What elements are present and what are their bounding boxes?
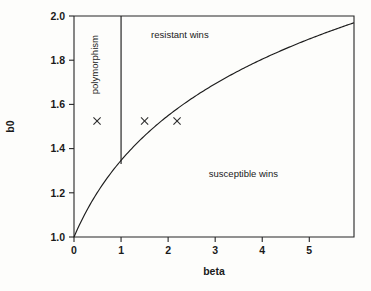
x-tick-label: 5 — [306, 244, 312, 256]
x-tick-label: 0 — [71, 244, 77, 256]
y-tick-label: 1.0 — [50, 231, 65, 243]
phase-diagram-svg: 1.01.21.41.61.82.0 012345 polymorphism r… — [0, 0, 371, 291]
x-tick-label: 2 — [165, 244, 171, 256]
x-axis-ticks — [74, 237, 309, 242]
y-tick-label: 2.0 — [50, 10, 65, 22]
boundary-curve — [74, 23, 354, 237]
susceptible-wins-region-label: susceptible wins — [209, 168, 278, 179]
phase-diagram-figure: 1.01.21.41.61.82.0 012345 polymorphism r… — [0, 0, 371, 291]
y-tick-label: 1.6 — [50, 98, 65, 110]
x-axis-tick-labels: 012345 — [71, 244, 312, 256]
plot-frame-box — [74, 16, 354, 237]
plot-frame — [74, 16, 354, 237]
y-tick-label: 1.4 — [50, 142, 65, 154]
resistant-wins-region-label: resistant wins — [151, 29, 209, 40]
data-point-markers — [93, 117, 180, 124]
x-axis-title: beta — [203, 265, 225, 277]
marker-cross — [93, 117, 100, 124]
x-tick-label: 4 — [259, 244, 265, 256]
x-tick-label: 1 — [118, 244, 124, 256]
polymorphism-region-label: polymorphism — [89, 35, 100, 94]
x-tick-label: 3 — [212, 244, 218, 256]
y-axis-ticks — [69, 16, 74, 237]
y-tick-label: 1.2 — [50, 187, 65, 199]
y-axis-title: b0 — [4, 120, 16, 132]
marker-cross — [173, 117, 180, 124]
marker-cross — [141, 117, 148, 124]
y-axis-tick-labels: 1.01.21.41.61.82.0 — [50, 10, 65, 243]
y-tick-label: 1.8 — [50, 54, 65, 66]
